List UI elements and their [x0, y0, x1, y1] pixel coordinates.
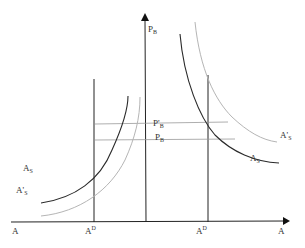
left-vertical-label: AD [85, 225, 97, 236]
x-axis [11, 221, 285, 222]
y-axis-label: PB [148, 24, 157, 35]
right-curve-light-label: A'S [280, 130, 291, 141]
diagram-canvas: PB P'B PB AS A'S A'S AS A AD AD A [0, 0, 305, 248]
origin-label: A [12, 226, 19, 236]
y-axis-arrow-icon [141, 13, 149, 21]
left-curve-dark-label: AS [23, 163, 33, 174]
x-axis-label: A [278, 226, 285, 236]
left-curve-dark [41, 96, 128, 203]
right-curve-dark [180, 34, 279, 163]
y-axis [145, 20, 146, 222]
right-curve-dark-label: AS [250, 153, 260, 164]
price-high-label: P'B [153, 118, 164, 129]
right-vertical-label: AD [196, 225, 208, 236]
diagram-svg: PB P'B PB AS A'S A'S AS A AD AD A [0, 0, 305, 248]
x-axis-arrow-icon [283, 217, 290, 225]
price-low-label: PB [155, 132, 164, 143]
left-curve-light-label: A'S [16, 185, 27, 196]
